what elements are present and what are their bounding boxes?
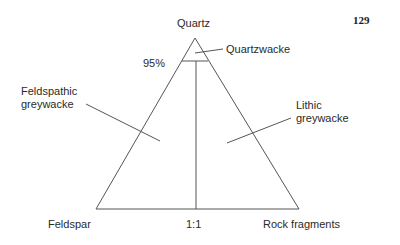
triangle-outline: [96, 38, 299, 209]
page-number: 129: [353, 14, 370, 26]
field-label-line2: greywacke: [296, 112, 349, 125]
apex-label-quartz: Quartz: [177, 17, 210, 30]
lithic-greywacke-leader: [227, 118, 291, 143]
field-label-line1: Feldspathic: [21, 85, 77, 98]
threshold-label: 95%: [143, 57, 165, 70]
apex-label-rock-fragments: Rock fragments: [263, 218, 340, 231]
feldspathic-greywacke-leader: [86, 104, 160, 141]
field-label-line1: Lithic: [296, 99, 349, 112]
field-label-quartzwacke: Quartzwacke: [226, 43, 290, 56]
quartzwacke-leader: [195, 49, 223, 53]
field-label-line2: greywacke: [21, 98, 77, 111]
field-label-lithic-greywacke: Lithic greywacke: [296, 99, 349, 125]
field-label-feldspathic-greywacke: Feldspathic greywacke: [21, 85, 77, 111]
ternary-diagram: 129 Quartz Quartzwacke 95% Feldspathic g…: [0, 0, 400, 245]
ratio-label: 1:1: [186, 218, 201, 231]
apex-label-feldspar: Feldspar: [48, 218, 91, 231]
